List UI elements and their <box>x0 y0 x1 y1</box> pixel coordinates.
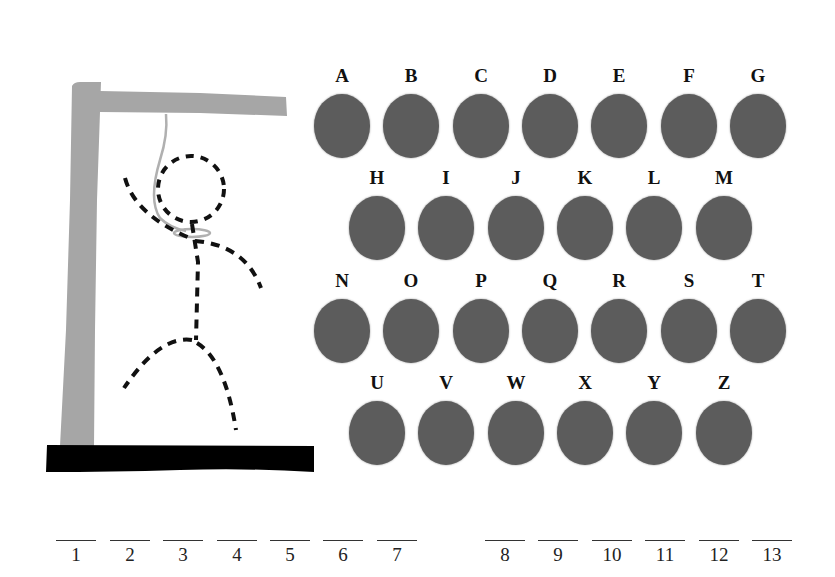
letter-button[interactable] <box>453 299 509 363</box>
figure-left-leg <box>124 340 192 388</box>
letter-key-s[interactable]: S <box>654 271 724 363</box>
letter-label: Y <box>619 373 689 395</box>
letter-button[interactable] <box>314 299 370 363</box>
slot-number: 7 <box>377 544 417 566</box>
letter-label: P <box>446 271 516 293</box>
slot-number: 6 <box>323 544 363 566</box>
letter-key-j[interactable]: J <box>481 168 551 260</box>
word-slot-10: 10 <box>592 540 632 566</box>
letter-key-z[interactable]: Z <box>689 373 759 465</box>
slot-number: 1 <box>56 544 96 566</box>
letter-label: T <box>723 271 793 293</box>
letter-key-u[interactable]: U <box>342 373 412 465</box>
slot-number: 4 <box>217 544 257 566</box>
slot-underline <box>270 540 310 541</box>
letter-key-a[interactable]: A <box>307 66 377 158</box>
letter-key-e[interactable]: E <box>584 66 654 158</box>
letter-button[interactable] <box>418 196 474 260</box>
letter-key-w[interactable]: W <box>481 373 551 465</box>
letter-button[interactable] <box>488 401 544 465</box>
letter-button[interactable] <box>661 94 717 158</box>
letter-button[interactable] <box>488 196 544 260</box>
letter-key-c[interactable]: C <box>446 66 516 158</box>
letter-button[interactable] <box>591 94 647 158</box>
letter-button[interactable] <box>453 94 509 158</box>
letter-button[interactable] <box>730 94 786 158</box>
letter-key-l[interactable]: L <box>619 168 689 260</box>
letter-button[interactable] <box>383 94 439 158</box>
letter-button[interactable] <box>557 401 613 465</box>
word-slot-11: 11 <box>645 540 685 566</box>
letter-key-i[interactable]: I <box>411 168 481 260</box>
letter-label: X <box>550 373 620 395</box>
letter-key-f[interactable]: F <box>654 66 724 158</box>
letter-button[interactable] <box>591 299 647 363</box>
letter-label: J <box>481 168 551 190</box>
word-slot-5: 5 <box>270 540 310 566</box>
slot-underline <box>645 540 685 541</box>
slot-underline <box>110 540 150 541</box>
letter-key-g[interactable]: G <box>723 66 793 158</box>
letter-key-y[interactable]: Y <box>619 373 689 465</box>
letter-label: I <box>411 168 481 190</box>
slot-underline <box>377 540 417 541</box>
letter-key-r[interactable]: R <box>584 271 654 363</box>
slot-underline <box>752 540 792 541</box>
letter-button[interactable] <box>383 299 439 363</box>
letter-button[interactable] <box>522 299 578 363</box>
letter-button[interactable] <box>349 196 405 260</box>
word-slot-2: 2 <box>110 540 150 566</box>
slot-underline <box>217 540 257 541</box>
word-slot-6: 6 <box>323 540 363 566</box>
slot-underline <box>163 540 203 541</box>
letter-button[interactable] <box>522 94 578 158</box>
letter-label: C <box>446 66 516 88</box>
letter-button[interactable] <box>418 401 474 465</box>
letter-key-m[interactable]: M <box>689 168 759 260</box>
slot-underline <box>592 540 632 541</box>
letter-key-q[interactable]: Q <box>515 271 585 363</box>
slot-number: 2 <box>110 544 150 566</box>
word-slot-7: 7 <box>377 540 417 566</box>
letter-key-x[interactable]: X <box>550 373 620 465</box>
slot-number: 10 <box>592 544 632 566</box>
letter-button[interactable] <box>626 196 682 260</box>
letter-key-o[interactable]: O <box>376 271 446 363</box>
letter-label: H <box>342 168 412 190</box>
letter-label: L <box>619 168 689 190</box>
letter-key-n[interactable]: N <box>307 271 377 363</box>
letter-button[interactable] <box>349 401 405 465</box>
letter-button[interactable] <box>730 299 786 363</box>
letter-key-h[interactable]: H <box>342 168 412 260</box>
letter-key-v[interactable]: V <box>411 373 481 465</box>
word-slot-13: 13 <box>752 540 792 566</box>
letter-button[interactable] <box>696 401 752 465</box>
letter-key-p[interactable]: P <box>446 271 516 363</box>
letter-button[interactable] <box>661 299 717 363</box>
slot-underline <box>699 540 739 541</box>
letter-key-k[interactable]: K <box>550 168 620 260</box>
letter-label: R <box>584 271 654 293</box>
slot-underline <box>56 540 96 541</box>
figure-head <box>158 156 224 222</box>
letter-label: E <box>584 66 654 88</box>
slot-number: 8 <box>485 544 525 566</box>
letter-label: Q <box>515 271 585 293</box>
slot-number: 5 <box>270 544 310 566</box>
hangman-game: A B C D E F G H I J K L M N O P Q R S T … <box>0 0 835 577</box>
letter-button[interactable] <box>557 196 613 260</box>
letter-key-d[interactable]: D <box>515 66 585 158</box>
letter-label: Z <box>689 373 759 395</box>
letter-label: U <box>342 373 412 395</box>
letter-key-t[interactable]: T <box>723 271 793 363</box>
gallows-post <box>60 82 101 446</box>
letter-label: S <box>654 271 724 293</box>
letter-button[interactable] <box>314 94 370 158</box>
letter-button[interactable] <box>626 401 682 465</box>
letter-label: A <box>307 66 377 88</box>
slot-number: 11 <box>645 544 685 566</box>
letter-button[interactable] <box>696 196 752 260</box>
letter-key-b[interactable]: B <box>376 66 446 158</box>
word-slot-1: 1 <box>56 540 96 566</box>
slot-number: 13 <box>752 544 792 566</box>
